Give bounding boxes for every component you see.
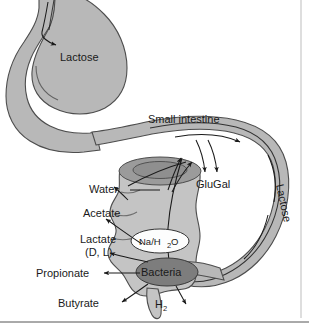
lactate-label: Lactate [80,233,116,245]
figure-container: Lactose Small intestine GluGal Lactose W… [0,0,309,331]
hydrogen-subscript: 2 [163,304,167,313]
small-intestine-label: Small intestine [148,113,220,125]
bacteria-label: Bacteria [141,266,182,278]
acetate-label: Acetate [83,207,120,219]
butyrate-label: Butyrate [58,297,99,309]
stomach-lactose-label: Lactose [60,51,99,63]
propionate-label: Propionate [36,267,89,279]
small-intestine-flow-arrow [175,135,240,142]
na-h2o-suffix-label: O [171,236,178,247]
glugal-arrow-2 [208,140,217,172]
lactate-isomers-label: (D, L) [85,246,113,258]
glugal-label: GluGal [196,178,230,190]
hydrogen-label: H [155,298,163,310]
water-label: Water [89,183,118,195]
gi-tract-diagram: Lactose Small intestine GluGal Lactose W… [0,0,309,331]
na-h2o-prefix-label: Na/H [139,236,161,247]
